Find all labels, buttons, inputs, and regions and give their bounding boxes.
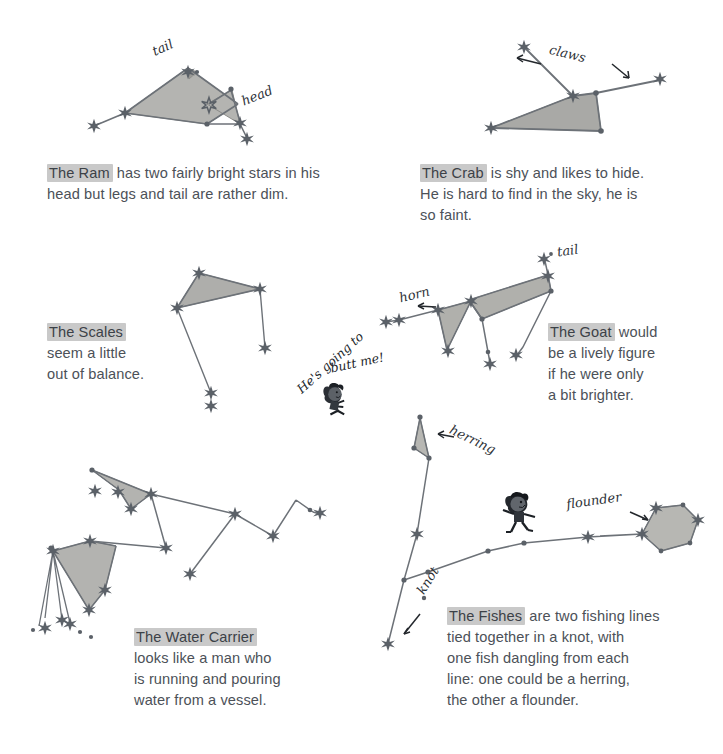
caption-crab-line3: so faint. (420, 207, 472, 223)
caption-ram-line2: head but legs and tail are rather dim. (47, 186, 289, 202)
label-ram-tail: tail (150, 36, 176, 58)
caption-scales: The Scales seem a little out of balance. (47, 322, 237, 385)
constellation-water-carrier (31, 467, 327, 639)
caption-water-carrier-line3: is running and pouring (134, 671, 281, 687)
caption-ram: The Ram has two fairly bright stars in h… (47, 163, 367, 205)
caption-water-carrier: The Water Carrier looks like a man who i… (134, 627, 364, 711)
caption-water-carrier-line4: water from a vessel. (134, 692, 267, 708)
caption-goat-name: The Goat (548, 323, 615, 341)
label-goat-tail: tail (556, 242, 579, 260)
caption-goat-line2: be a lively figure (548, 345, 655, 361)
caption-scales-line3: out of balance. (47, 366, 144, 382)
caption-fishes-line2: tied together in a knot, with (447, 629, 624, 645)
caption-fishes-line5: the other a flounder. (447, 692, 579, 708)
constellation-goat (379, 252, 555, 371)
cartoon-boy-running-fishes (503, 492, 535, 532)
caption-water-carrier-line2: looks like a man who (134, 650, 271, 666)
label-fishes-herring: herring (447, 422, 498, 457)
caption-fishes-line4: line: one could be a herring, (447, 671, 630, 687)
caption-goat-line4: a bit brighter. (548, 387, 634, 403)
caption-fishes: The Fishes are two fishing lines tied to… (447, 606, 717, 711)
caption-crab-line2: He is hard to find in the sky, he is (420, 186, 637, 202)
caption-goat-rest: would (615, 324, 658, 340)
caption-crab-rest: is shy and likes to hide. (487, 165, 645, 181)
label-goat-horn: horn (398, 283, 432, 305)
illustration-page: tail head claws horn tail herring knot f… (0, 0, 723, 754)
caption-ram-rest: has two fairly bright stars in his (113, 165, 320, 181)
caption-goat-line3: if he were only (548, 366, 644, 382)
label-ram-head: head (239, 83, 274, 109)
label-fishes-knot: knot (414, 564, 442, 597)
label-fishes-flounder: flounder (565, 489, 622, 512)
caption-water-carrier-name: The Water Carrier (134, 628, 257, 646)
caption-fishes-line3: one fish dangling from each (447, 650, 629, 666)
caption-fishes-name: The Fishes (447, 607, 525, 625)
label-crab-claws: claws (548, 42, 588, 66)
caption-scales-line2: seem a little (47, 345, 126, 361)
constellation-ram (87, 65, 254, 146)
caption-goat: The Goat would be a lively figure if he … (548, 322, 723, 406)
caption-ram-name: The Ram (47, 164, 113, 182)
caption-crab: The Crab is shy and likes to hide. He is… (420, 163, 710, 226)
caption-scales-name: The Scales (47, 323, 126, 341)
cartoon-boy-fleeing-goat (323, 383, 344, 414)
caption-crab-name: The Crab (420, 164, 487, 182)
caption-fishes-rest: are two fishing lines (525, 608, 659, 624)
